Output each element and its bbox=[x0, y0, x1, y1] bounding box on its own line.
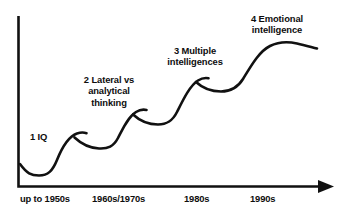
wave-label-2-line-1: 2 Lateral vs bbox=[84, 74, 134, 85]
wave-label-3-line-2: intelligences bbox=[167, 56, 223, 67]
wave-label-2-line-2: analytical bbox=[88, 85, 130, 96]
x-axis-tick-label-0: up to 1950s bbox=[20, 193, 70, 204]
x-axis-tick-label-1: 1960s/1970s bbox=[92, 193, 145, 204]
wave-label-2: 2 Lateral vsanalyticalthinking bbox=[73, 74, 145, 108]
wave-label-2-line-3: thinking bbox=[91, 97, 127, 108]
x-axis-tick-label-2: 1980s bbox=[184, 193, 209, 204]
wave-label-4: 4 Emotionalintelligence bbox=[233, 13, 321, 36]
x-axis-tick-label-3: 1990s bbox=[250, 193, 275, 204]
wave-label-4-line-2: intelligence bbox=[252, 24, 302, 35]
diagram-canvas: 1 IQ 2 Lateral vsanalyticalthinking 3 Mu… bbox=[0, 0, 350, 213]
wave-label-4-line-1: 4 Emotional bbox=[251, 13, 303, 24]
wave-label-1: 1 IQ bbox=[30, 131, 47, 142]
wave-label-3-line-1: 3 Multiple bbox=[174, 45, 216, 56]
wave-label-3: 3 Multipleintelligences bbox=[155, 45, 235, 68]
x-axis-arrowhead bbox=[318, 180, 334, 193]
axis-lines bbox=[19, 16, 321, 187]
